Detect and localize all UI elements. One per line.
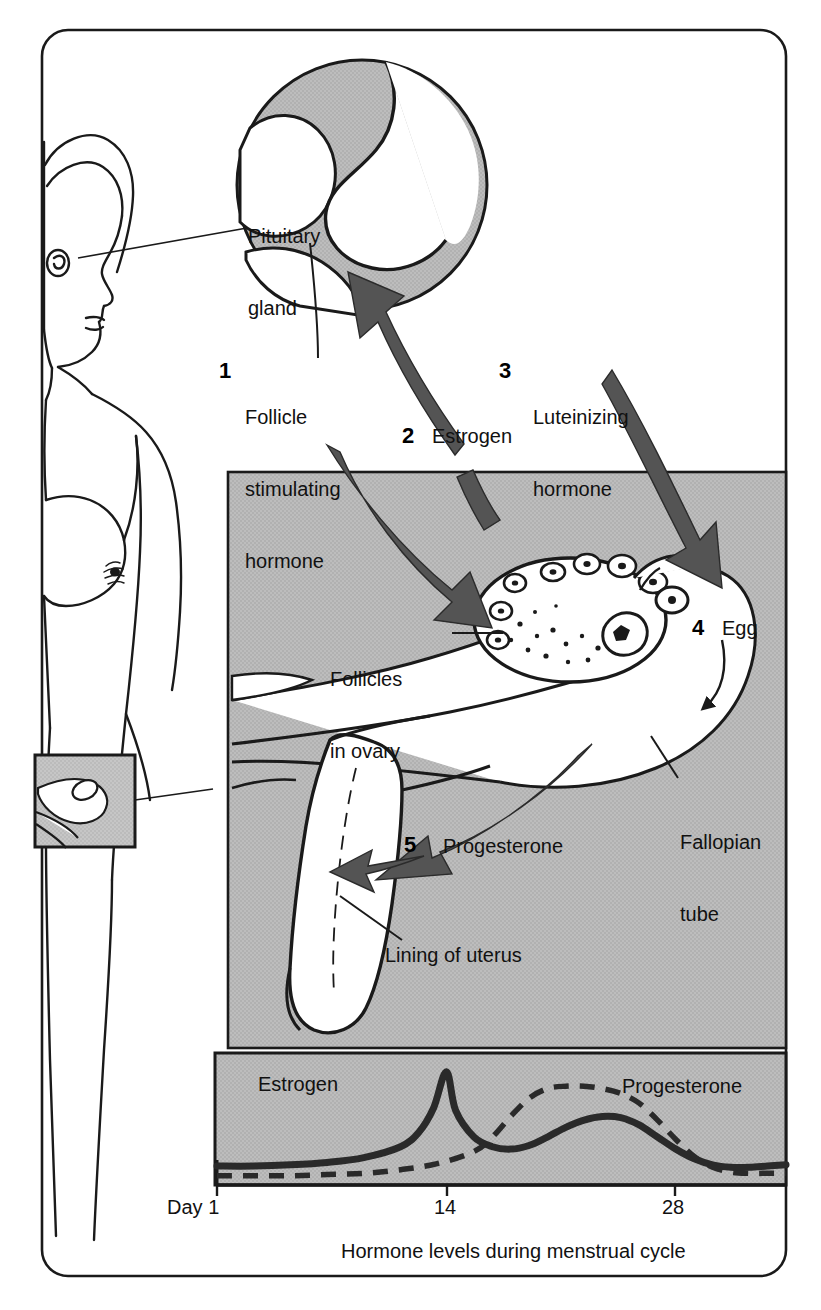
- follicles-in-ovary-label: Follicles in ovary: [330, 619, 402, 811]
- step-4-number: 4: [692, 615, 704, 641]
- figure-root: Pituitary gland 1 Follicle stimulating h…: [0, 0, 821, 1310]
- chart-legend-progesterone: Progesterone: [622, 1074, 742, 1098]
- step-2-label: Estrogen: [432, 424, 512, 448]
- egg-label: Egg: [722, 616, 758, 640]
- chart-tick-day-1: Day 1: [167, 1196, 219, 1219]
- step-2-number: 2: [402, 423, 414, 449]
- progesterone-label: Progesterone: [443, 834, 563, 858]
- chart-tick-28: 28: [662, 1196, 684, 1219]
- pituitary-gland-label: Pituitary gland: [248, 176, 320, 368]
- chart-legend-estrogen: Estrogen: [258, 1072, 338, 1096]
- diagram-artwork: [0, 0, 821, 1310]
- step-3-label: Luteinizing hormone: [533, 357, 629, 549]
- lining-of-uterus-label: Lining of uterus: [385, 943, 522, 967]
- pelvis-inset-leader: [135, 789, 213, 800]
- chart-caption: Hormone levels during menstrual cycle: [341, 1240, 686, 1263]
- fallopian-tube-label: Fallopian tube: [680, 782, 761, 974]
- step-5-number: 5: [404, 832, 416, 858]
- step-3-number: 3: [499, 358, 511, 384]
- woman-figure: [44, 135, 181, 1240]
- step-1-number: 1: [219, 358, 231, 384]
- pelvis-inset: [35, 755, 213, 848]
- chart-tick-14: 14: [434, 1196, 456, 1219]
- step-1-label: Follicle stimulating hormone: [245, 357, 341, 621]
- pituitary-callout-line: [78, 228, 247, 258]
